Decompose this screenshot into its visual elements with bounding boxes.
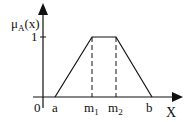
membership-function-diagram: μA(x) 1 0 a m1 m2 b X	[0, 0, 189, 122]
x-tick-label-a: a	[52, 100, 58, 115]
trapezoid-membership-curve	[55, 37, 152, 97]
x-axis-label: X	[166, 105, 176, 120]
x-axis-arrow-icon	[172, 92, 183, 102]
x-tick-label-m2: m2	[108, 100, 123, 117]
x-tick-label-b: b	[146, 100, 153, 115]
y-tick-label: 1	[31, 29, 38, 44]
y-axis-arrow-icon	[38, 3, 48, 15]
x-tick-label-m1: m1	[84, 100, 99, 117]
origin-label: 0	[34, 100, 41, 115]
